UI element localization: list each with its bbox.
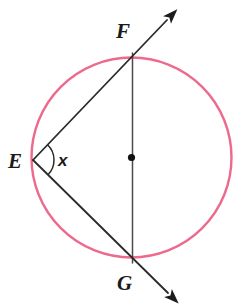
center-point-dot (128, 154, 135, 161)
ray-e-through-g (33, 160, 168, 293)
geometry-canvas: E F G x (0, 0, 249, 304)
point-label-g: G (117, 271, 132, 295)
angle-arc-at-e (48, 145, 54, 175)
ray-e-through-f (33, 20, 167, 160)
angle-label-x: x (57, 151, 69, 170)
geometry-figure: E F G x (0, 0, 249, 304)
point-label-e: E (7, 149, 22, 173)
point-label-f: F (115, 19, 130, 43)
